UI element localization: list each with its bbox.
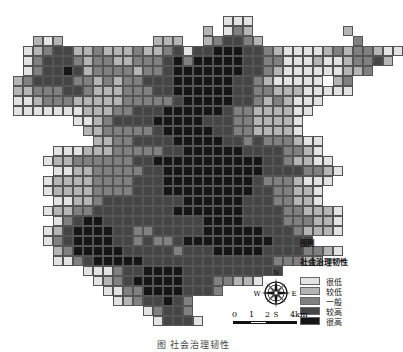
grid-cell — [223, 46, 233, 56]
grid-cell — [103, 66, 113, 76]
grid-cell — [133, 256, 143, 266]
grid-cell — [183, 286, 193, 296]
grid-cell — [43, 156, 53, 166]
grid-cell — [303, 86, 313, 96]
grid-cell — [203, 36, 213, 46]
grid-cell — [253, 56, 263, 66]
grid-cell — [123, 56, 133, 66]
grid-cell — [153, 316, 163, 326]
grid-cell — [183, 316, 193, 326]
grid-cell — [273, 186, 283, 196]
grid-cell — [13, 76, 23, 86]
grid-cell — [323, 156, 333, 166]
grid-cell — [113, 256, 123, 266]
grid-cell — [293, 116, 303, 126]
grid-cell — [313, 56, 323, 66]
grid-cell — [103, 156, 113, 166]
grid-cell — [83, 126, 93, 136]
grid-cell — [253, 206, 263, 216]
grid-cell — [223, 276, 233, 286]
grid-cell — [243, 126, 253, 136]
grid-cell — [53, 186, 63, 196]
grid-cell — [113, 166, 123, 176]
grid-cell — [243, 146, 253, 156]
grid-cell — [153, 286, 163, 296]
grid-cell — [263, 116, 273, 126]
grid-cell — [333, 56, 343, 66]
grid-cell — [143, 166, 153, 176]
grid-cell — [73, 246, 83, 256]
grid-cell — [133, 86, 143, 96]
grid-cell — [293, 66, 303, 76]
grid-cell — [123, 246, 133, 256]
grid-cell — [63, 186, 73, 196]
grid-cell — [83, 66, 93, 76]
grid-cell — [353, 36, 363, 46]
grid-cell — [143, 196, 153, 206]
grid-cell — [123, 296, 133, 306]
grid-cell — [143, 286, 153, 296]
grid-cell — [143, 256, 153, 266]
legend-swatch — [300, 277, 320, 285]
svg-text:W: W — [254, 290, 261, 298]
grid-cell — [363, 66, 373, 76]
grid-cell — [203, 66, 213, 76]
grid-cell — [153, 226, 163, 236]
grid-cell — [73, 196, 83, 206]
grid-cell — [63, 46, 73, 56]
grid-cell — [303, 56, 313, 66]
grid-cell — [393, 46, 403, 56]
grid-cell — [213, 276, 223, 286]
grid-cell — [13, 86, 23, 96]
grid-cell — [273, 176, 283, 186]
grid-cell — [93, 216, 103, 226]
grid-cell — [63, 196, 73, 206]
grid-cell — [43, 56, 53, 66]
grid-cell — [53, 156, 63, 166]
grid-cell — [173, 96, 183, 106]
grid-cell — [173, 126, 183, 136]
grid-cell — [173, 76, 183, 86]
grid-cell — [193, 46, 203, 56]
legend-item-very-low: 很低 — [300, 276, 348, 286]
grid-cell — [183, 196, 193, 206]
grid-cell — [323, 226, 333, 236]
grid-cell — [183, 276, 193, 286]
grid-cell — [163, 246, 173, 256]
legend-swatch — [300, 297, 320, 305]
grid-cell — [53, 206, 63, 216]
grid-cell — [153, 146, 163, 156]
grid-cell — [333, 76, 343, 86]
grid-cell — [143, 226, 153, 236]
grid-cell — [283, 176, 293, 186]
grid-cell — [373, 46, 383, 56]
grid-cell — [183, 306, 193, 316]
grid-cell — [143, 46, 153, 56]
grid-cell — [153, 136, 163, 146]
grid-cell — [53, 166, 63, 176]
grid-cell — [223, 26, 233, 36]
grid-cell — [183, 206, 193, 216]
grid-cell — [233, 216, 243, 226]
grid-cell — [273, 246, 283, 256]
grid-cell — [163, 186, 173, 196]
grid-cell — [273, 156, 283, 166]
grid-cell — [203, 186, 213, 196]
grid-cell — [103, 146, 113, 156]
grid-cell — [103, 176, 113, 186]
grid-cell — [263, 226, 273, 236]
grid-cell — [83, 186, 93, 196]
grid-cell — [363, 56, 373, 66]
grid-cell — [133, 126, 143, 136]
grid-cell — [103, 76, 113, 86]
grid-cell — [213, 66, 223, 76]
grid-cell — [233, 76, 243, 86]
grid-cell — [333, 206, 343, 216]
grid-cell — [183, 96, 193, 106]
grid-cell — [223, 166, 233, 176]
grid-cell — [33, 106, 43, 116]
grid-cell — [83, 206, 93, 216]
grid-cell — [163, 126, 173, 136]
grid-cell — [163, 106, 173, 116]
grid-cell — [303, 176, 313, 186]
